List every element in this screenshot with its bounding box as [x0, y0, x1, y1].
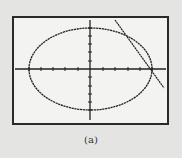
intersecting-line: [115, 20, 164, 88]
figure-caption: (a): [0, 134, 182, 145]
figure: (a): [0, 0, 182, 158]
